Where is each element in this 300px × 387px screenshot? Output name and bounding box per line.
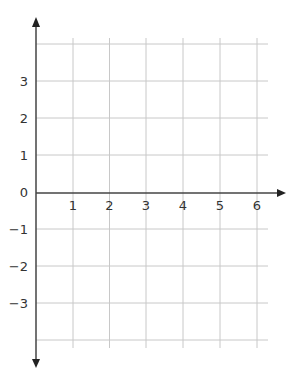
y-tick-2: 2 (20, 111, 28, 126)
x-tick-3: 3 (142, 198, 150, 213)
y-tick-neg2: −2 (9, 259, 28, 274)
x-tick-6: 6 (253, 198, 261, 213)
coordinate-grid: 1 2 3 4 5 6 3 2 1 0 −1 −2 −3 (0, 0, 300, 387)
y-tick-neg1: −1 (9, 222, 28, 237)
x-axis-arrow-icon (277, 189, 286, 197)
x-tick-1: 1 (69, 198, 77, 213)
x-tick-2: 2 (105, 198, 113, 213)
x-tick-labels: 1 2 3 4 5 6 (69, 198, 261, 213)
y-axis-down-arrow-icon (32, 359, 40, 368)
y-tick-labels: 3 2 1 0 −1 −2 −3 (9, 74, 28, 311)
y-tick-1: 1 (20, 148, 28, 163)
x-tick-5: 5 (216, 198, 224, 213)
y-axis-up-arrow-icon (32, 17, 40, 27)
y-tick-3: 3 (20, 74, 28, 89)
y-tick-neg3: −3 (9, 296, 28, 311)
y-tick-0: 0 (20, 185, 28, 200)
x-tick-4: 4 (179, 198, 187, 213)
